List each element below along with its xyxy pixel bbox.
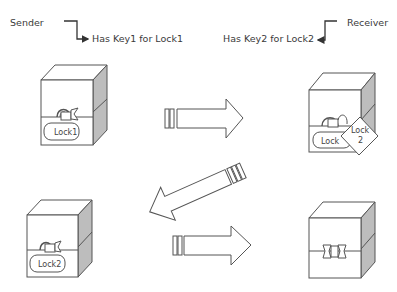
lock1-partial-text: Lock xyxy=(321,137,340,146)
sender-connector-arrow-icon xyxy=(64,21,88,39)
box-receiver-two-locks xyxy=(309,73,378,155)
receiver-connector-arrow-icon xyxy=(318,21,337,40)
lock2-text-line1: Lock xyxy=(351,126,370,135)
box-receiver-unlocked xyxy=(309,202,375,278)
lock2-text: Lock2 xyxy=(38,260,61,269)
lock2-text-line2: 2 xyxy=(358,136,363,145)
lock1-text: Lock1 xyxy=(54,128,77,137)
diagram-canvas: Lock1 Lock Lock 2 Lock2 xyxy=(0,0,397,292)
arrow-right-step3-icon xyxy=(173,226,251,265)
arrow-left-step2-icon xyxy=(142,154,250,228)
clasp-icon xyxy=(323,245,346,258)
arrow-right-step1-icon xyxy=(165,99,243,138)
